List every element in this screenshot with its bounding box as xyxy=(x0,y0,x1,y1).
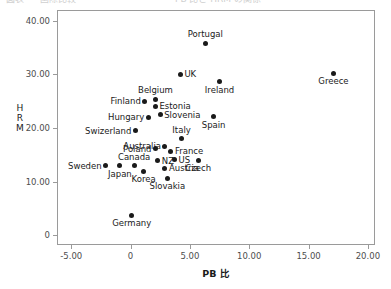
y-axis-label: HRM xyxy=(14,103,26,133)
y-axis-label-char: R xyxy=(14,113,26,123)
y-axis-tick-mark xyxy=(53,21,57,22)
y-axis-tick-mark xyxy=(53,74,57,75)
x-axis-tick-label: 20.00 xyxy=(356,252,380,261)
data-point xyxy=(132,163,137,168)
clipped-title-strip: 図表国際比較PB 比と HRM の関係 xyxy=(0,0,391,5)
data-point-label: Slovenia xyxy=(164,110,200,119)
x-axis-tick-mark xyxy=(368,245,369,249)
x-axis-tick-mark xyxy=(131,245,132,249)
data-point-label: Sweden xyxy=(68,161,102,170)
x-axis-tick-label: 15.00 xyxy=(296,252,320,261)
data-point xyxy=(165,176,170,181)
data-point-label: Greece xyxy=(318,77,348,86)
data-point-label: Austria xyxy=(169,164,199,173)
y-axis-tick-label: 20.00 xyxy=(26,124,50,133)
data-point-label: Swizerland xyxy=(85,126,131,135)
y-axis-tick-label: 40.00 xyxy=(26,16,50,25)
x-axis-tick-mark xyxy=(71,245,72,249)
data-point-label: Spain xyxy=(202,121,226,130)
x-axis-tick-mark xyxy=(309,245,310,249)
y-axis-label-char: H xyxy=(14,103,26,113)
x-axis-tick-mark xyxy=(190,245,191,249)
data-point xyxy=(203,41,208,46)
y-axis-label-char: M xyxy=(14,123,26,133)
x-axis-tick-mark xyxy=(249,245,250,249)
clipped-title-segment: 図表 xyxy=(6,0,24,4)
y-axis-tick-label: 0 xyxy=(45,231,50,240)
data-point-label: Belgium xyxy=(138,86,173,95)
clipped-title-segment: 国際比較 xyxy=(40,0,76,4)
y-axis-tick-mark xyxy=(53,182,57,183)
data-point xyxy=(153,104,158,109)
y-axis-tick-label: 30.00 xyxy=(26,70,50,79)
y-axis-tick-label: 10.00 xyxy=(26,177,50,186)
data-point-label: Hungary xyxy=(108,113,144,122)
y-axis-tick-mark xyxy=(53,128,57,129)
data-point-label: Germany xyxy=(112,219,151,228)
data-point-label: Slovakia xyxy=(149,182,185,191)
x-axis-label: PB 比 xyxy=(202,268,230,279)
data-point xyxy=(331,71,336,76)
x-axis-tick-label: 0 xyxy=(128,252,133,261)
data-point-label: Japan xyxy=(108,170,132,179)
data-point-label: Finland xyxy=(110,97,140,106)
data-point-label: Italy xyxy=(172,126,190,135)
clipped-title-segment: PB 比と HRM の関係 xyxy=(175,0,261,4)
data-point-label: UK xyxy=(184,70,196,79)
data-point xyxy=(178,72,183,77)
x-axis-tick-label: 10.00 xyxy=(237,252,261,261)
x-axis-tick-label: -5.00 xyxy=(60,252,82,261)
scatter-chart-figure: 図表国際比較PB 比と HRM の関係 HRM 010.0020.0030.00… xyxy=(0,0,391,289)
x-axis-tick-label: 5.00 xyxy=(180,252,199,261)
data-point xyxy=(146,115,151,120)
data-point-label: Canada xyxy=(118,153,150,162)
data-point xyxy=(158,112,163,117)
data-point-label: Portugal xyxy=(188,30,223,39)
data-point xyxy=(153,97,158,102)
data-point-label: Ireland xyxy=(205,86,234,95)
y-axis-tick-mark xyxy=(53,235,57,236)
